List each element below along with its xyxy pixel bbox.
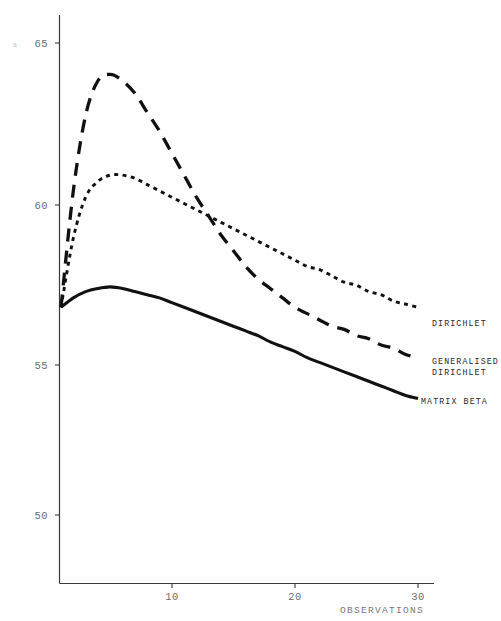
legend-label-matrix-beta: MATRIX BETA	[421, 397, 488, 406]
x-axis-title: OBSERVATIONS	[340, 605, 424, 616]
y-tick-label-60: 60	[35, 200, 48, 212]
series-line-matrix-beta	[61, 287, 418, 399]
x-tick-label-20: 20	[288, 591, 301, 603]
y-tick-label-50: 50	[35, 510, 48, 522]
legend-label-generalised-dirichlet-line1: GENERALISED	[432, 357, 499, 366]
x-tick-label-10: 10	[165, 591, 178, 603]
legend-label-dirichlet: DIRICHLET	[432, 319, 487, 328]
series-line-generalised-dirichlet	[61, 74, 418, 357]
y-axis-title: a	[13, 41, 18, 49]
y-tick-label-55: 55	[35, 360, 48, 372]
line-chart-figure: 65 60 55 50 a 10 20 30 OBSERVATIONS DIRI…	[0, 0, 501, 621]
y-tick-label-65: 65	[35, 38, 48, 50]
x-tick-label-30: 30	[411, 591, 424, 603]
plot-area	[61, 74, 418, 398]
legend-label-generalised-dirichlet-line2: DIRICHLET	[432, 368, 487, 377]
